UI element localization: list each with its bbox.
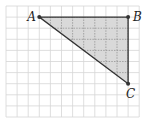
vertex-point-c <box>126 82 130 86</box>
vertex-label-b: B <box>132 10 142 24</box>
triangle-diagram: A B C <box>0 0 149 127</box>
vertex-label-c: C <box>126 87 135 101</box>
vertex-point-a <box>37 15 41 19</box>
vertex-label-a: A <box>26 10 36 24</box>
vertex-point-b <box>126 15 130 19</box>
